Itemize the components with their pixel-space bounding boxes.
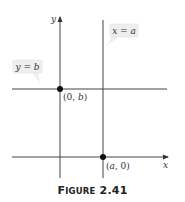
svg-text:y = b: y = b — [14, 62, 39, 72]
coordinate-diagram: y x x = a y = b (0, b) (a, 0) — [0, 0, 185, 202]
point-0-b-label: (0, b) — [63, 92, 87, 102]
callout-y-equals-b: y = b — [13, 60, 42, 84]
callout-x-equals-a: x = a — [106, 24, 138, 46]
x-axis-label: x — [163, 160, 168, 170]
y-axis-label: y — [50, 14, 57, 24]
svg-text:x = a: x = a — [112, 26, 136, 36]
figure-caption: FIGURE 2.41 — [0, 184, 185, 197]
point-a-0 — [100, 154, 106, 160]
point-a-0-label: (a, 0) — [106, 161, 130, 171]
